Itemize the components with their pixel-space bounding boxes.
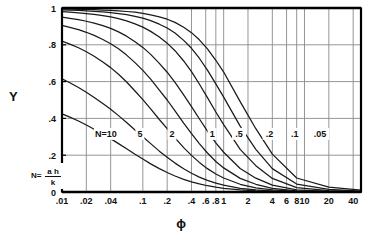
- curve-label-1: 1: [208, 128, 217, 140]
- curve-label-2: .2: [263, 128, 277, 140]
- curve-label-1: .1: [288, 128, 302, 140]
- curve-label-05: .05: [310, 128, 329, 140]
- curve-label-5: 5: [135, 128, 144, 140]
- x-tick-label: 4: [270, 196, 275, 206]
- x-tick-label: 40: [348, 196, 358, 206]
- curve-label-5: .5: [232, 128, 246, 140]
- y-tick-label: .4: [48, 114, 56, 124]
- y-axis-title: Y: [9, 89, 18, 104]
- x-tick-label: .4: [188, 196, 196, 206]
- x-tick-label: .01: [56, 196, 69, 206]
- chart-canvas: .01.02.04.1.2.4.6.812468102040 0.2.4.6.8…: [0, 0, 370, 233]
- formula-denominator: k: [51, 178, 56, 187]
- curve-label-text: 2: [170, 129, 175, 139]
- curve-label-text: 1: [210, 129, 215, 139]
- x-tick-label: 6: [284, 196, 289, 206]
- curve-label-text: .05: [314, 129, 327, 139]
- y-tick-label: .8: [48, 40, 56, 50]
- curve-label-text: 5: [137, 129, 142, 139]
- x-tick-label: .1: [139, 196, 147, 206]
- formula-lead: N=: [31, 171, 42, 180]
- x-tick-label: 10: [299, 196, 309, 206]
- curve-label-text: .2: [266, 129, 274, 139]
- x-axis-title: ϕ: [176, 216, 186, 231]
- curve-label-text: N=10: [95, 129, 117, 139]
- x-tick-label: .2: [163, 196, 171, 206]
- y-tick-label: .2: [48, 151, 56, 161]
- x-tick-label: 20: [324, 196, 334, 206]
- curve-label-text: .5: [235, 129, 243, 139]
- chart-figure: .01.02.04.1.2.4.6.812468102040 0.2.4.6.8…: [0, 0, 370, 233]
- x-tick-label: .04: [104, 196, 117, 206]
- formula-annotation: N= a h k: [28, 163, 66, 189]
- curve-label-2: 2: [168, 128, 177, 140]
- x-tick-label: .6: [202, 196, 210, 206]
- formula-numerator: a h: [47, 167, 59, 176]
- x-tick-label: .02: [80, 196, 93, 206]
- x-tick-label: .8: [212, 196, 220, 206]
- curve-label-text: .1: [291, 129, 299, 139]
- x-tick-label: 2: [245, 196, 250, 206]
- y-tick-label: 1: [51, 4, 56, 14]
- x-tick-label: 8: [294, 196, 299, 206]
- x-tick-label: 1: [221, 196, 226, 206]
- curve-label-N10: N=10: [94, 128, 118, 140]
- y-tick-label: .6: [48, 77, 56, 87]
